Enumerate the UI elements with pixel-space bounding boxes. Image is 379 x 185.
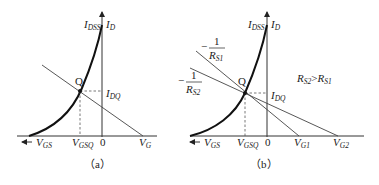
id-axis-label: ID: [270, 18, 281, 32]
svg-text:−: −: [178, 74, 184, 86]
idss-label: IDSS: [247, 18, 265, 32]
q-point: [78, 89, 82, 93]
bias-line: [42, 65, 143, 136]
caption-a: （a）: [84, 158, 111, 170]
svg-text:RS1: RS1: [208, 49, 223, 63]
vgsq-label: VGSQ: [72, 136, 94, 150]
vg2-label: VG2: [333, 136, 349, 150]
q-label: Q: [75, 75, 83, 87]
vgs-label: VGS: [36, 136, 52, 150]
origin-label: 0: [100, 136, 106, 148]
caption-b: （b）: [250, 158, 278, 170]
vg-label: VG: [139, 136, 152, 150]
slope-rs1-label: − 1 RS1: [201, 35, 225, 63]
vg1-label: VG1: [294, 136, 310, 150]
q-label: Q: [238, 75, 246, 87]
relation-label: RS2>RS1: [296, 72, 332, 86]
vgs-label: VGS: [204, 136, 220, 150]
svg-text:1: 1: [191, 69, 197, 81]
vgsq-label: VGSQ: [237, 136, 259, 150]
panel-b: − 1 RS1 − 1 RS2 IDSS ID Q IDQ RS2>RS1 VG…: [178, 12, 364, 170]
jfet-bias-diagram: IDSS ID Q IDQ VGS VGSQ 0 VG （a） − 1 RS1 …: [0, 0, 379, 185]
idq-label: IDQ: [105, 87, 121, 101]
q-point: [243, 91, 247, 95]
panel-a: IDSS ID Q IDQ VGS VGSQ 0 VG （a）: [17, 12, 157, 170]
origin-label: 0: [265, 136, 271, 148]
transfer-curve: [29, 25, 102, 136]
id-axis-label: ID: [105, 18, 116, 32]
idss-label: IDSS: [83, 18, 101, 32]
svg-text:1: 1: [214, 35, 220, 47]
idq-label: IDQ: [270, 89, 286, 103]
svg-text:−: −: [201, 40, 207, 52]
svg-text:RS2: RS2: [185, 83, 200, 97]
slope-rs2-label: − 1 RS2: [178, 69, 202, 97]
